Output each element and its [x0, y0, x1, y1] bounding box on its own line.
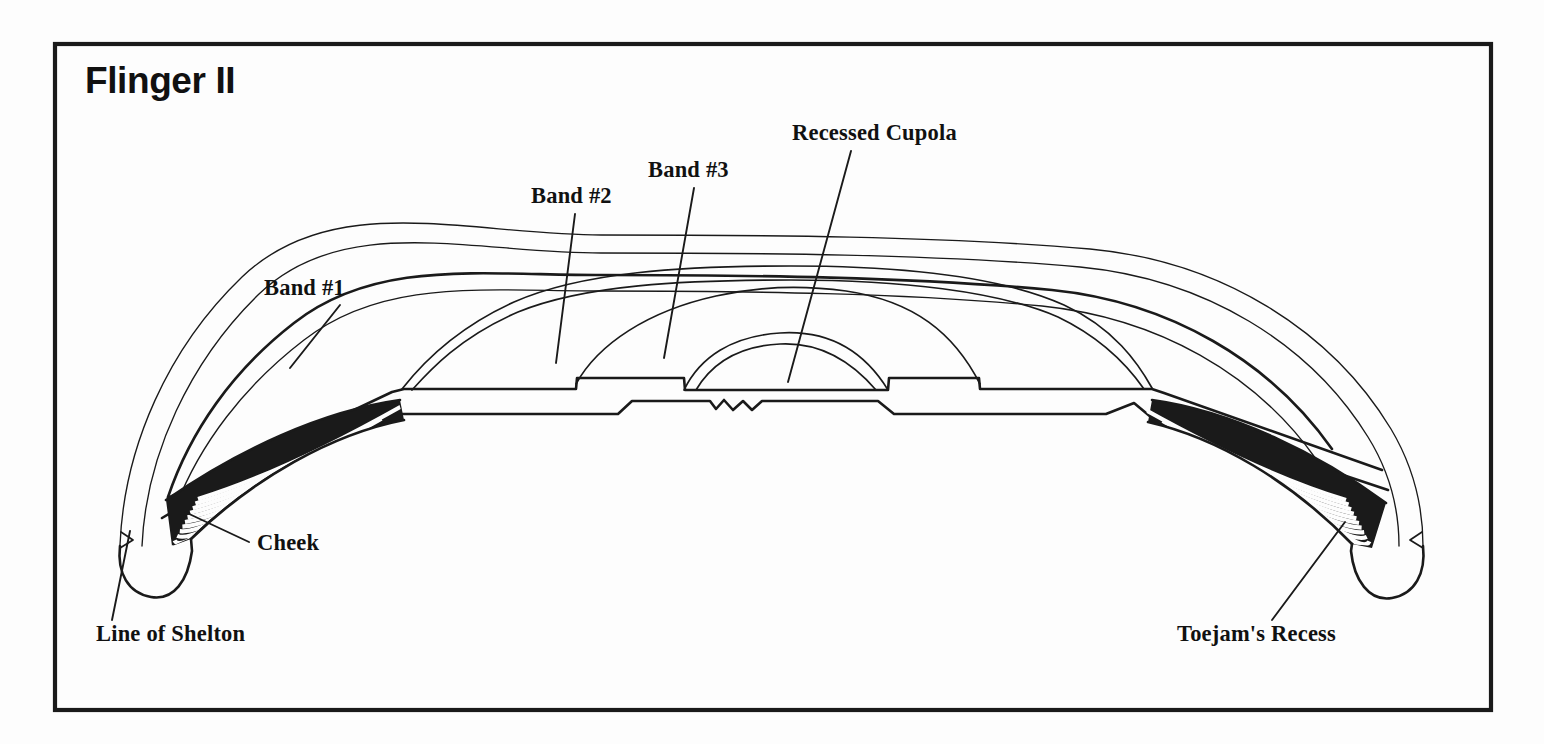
callout-label-band-1: Band #1 — [264, 275, 345, 300]
technical-illustration-canvas: Band #1Band #2Band #3Recessed CupolaChee… — [0, 0, 1544, 744]
callout-label-band-3: Band #3 — [648, 157, 729, 182]
callout-label-cheek: Cheek — [257, 530, 320, 555]
callout-label-line-of-shelton: Line of Shelton — [96, 621, 246, 646]
figure-root: Band #1Band #2Band #3Recessed CupolaChee… — [0, 0, 1544, 744]
callout-label-recessed-cupola: Recessed Cupola — [792, 120, 957, 145]
callout-label-toejams-recess: Toejam's Recess — [1177, 621, 1336, 646]
figure-frame — [55, 44, 1491, 710]
callout-label-band-2: Band #2 — [531, 183, 612, 208]
figure-title: Flinger II — [85, 60, 235, 101]
